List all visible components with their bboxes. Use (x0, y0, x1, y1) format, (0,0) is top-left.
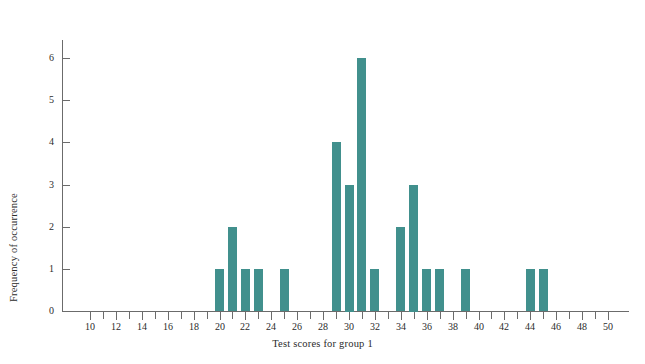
bar (396, 227, 405, 311)
x-tick-40 (479, 312, 480, 320)
bar (409, 185, 418, 312)
x-tick-14 (142, 312, 143, 320)
y-tick-label-2: 2 (34, 221, 54, 232)
y-tick-label-4: 4 (34, 136, 54, 147)
y-axis-line (62, 40, 63, 312)
x-tick-19 (207, 312, 208, 319)
x-tick-22 (245, 312, 246, 320)
x-tick-27 (310, 312, 311, 319)
x-tick-11 (103, 312, 104, 319)
x-tick-39 (466, 312, 467, 319)
bar (228, 227, 237, 311)
x-tick-10 (90, 312, 91, 320)
x-axis-label: Test scores for group 1 (0, 338, 645, 349)
x-tick-32 (375, 312, 376, 320)
x-tick-33 (388, 312, 389, 319)
x-tick-31 (362, 312, 363, 319)
x-tick-34 (401, 312, 402, 320)
bar (215, 269, 224, 311)
x-tick-26 (297, 312, 298, 320)
y-tick-label-0: 0 (34, 305, 54, 316)
x-tick-36 (427, 312, 428, 320)
bar (357, 58, 366, 311)
bar (241, 269, 250, 311)
bar (539, 269, 548, 311)
bar (254, 269, 263, 311)
bar (280, 269, 289, 311)
x-tick-48 (582, 312, 583, 320)
y-tick-label-5: 5 (34, 94, 54, 105)
x-tick-21 (232, 312, 233, 319)
bar (461, 269, 470, 311)
bar (422, 269, 431, 311)
y-tick-0 (63, 311, 70, 312)
x-tick-15 (155, 312, 156, 319)
x-tick-49 (595, 312, 596, 319)
y-tick-label-1: 1 (34, 263, 54, 274)
x-tick-50 (608, 312, 609, 320)
x-tick-12 (116, 312, 117, 320)
x-tick-46 (556, 312, 557, 320)
histogram-figure: Frequency of occurrence 0123456 10121416… (0, 0, 645, 364)
x-tick-17 (181, 312, 182, 319)
x-tick-38 (453, 312, 454, 320)
y-tick-6 (63, 58, 70, 59)
y-tick-label-6: 6 (34, 52, 54, 63)
y-axis-label-text: Frequency of occurrence (8, 62, 19, 302)
bar (526, 269, 535, 311)
x-tick-37 (440, 312, 441, 319)
y-tick-3 (63, 185, 70, 186)
x-axis-label-text: Test scores for group 1 (272, 338, 373, 349)
x-tick-42 (504, 312, 505, 320)
bar (332, 142, 341, 311)
x-tick-29 (336, 312, 337, 319)
x-tick-41 (491, 312, 492, 319)
x-tick-45 (543, 312, 544, 319)
x-tick-24 (271, 312, 272, 320)
x-tick-20 (220, 312, 221, 320)
bar (435, 269, 444, 311)
x-tick-30 (349, 312, 350, 320)
x-tick-25 (284, 312, 285, 319)
bar (370, 269, 379, 311)
y-tick-label-3: 3 (34, 179, 54, 190)
x-tick-43 (517, 312, 518, 319)
y-tick-4 (63, 142, 70, 143)
x-tick-13 (129, 312, 130, 319)
y-axis-label: Frequency of occurrence (8, 0, 19, 62)
x-tick-label-50: 50 (593, 321, 623, 332)
x-tick-44 (530, 312, 531, 320)
x-tick-18 (194, 312, 195, 320)
x-tick-47 (569, 312, 570, 319)
x-tick-28 (323, 312, 324, 320)
x-tick-35 (414, 312, 415, 319)
y-tick-5 (63, 100, 70, 101)
y-tick-1 (63, 269, 70, 270)
y-tick-2 (63, 227, 70, 228)
x-tick-23 (258, 312, 259, 319)
x-tick-16 (168, 312, 169, 320)
bar (345, 185, 354, 312)
